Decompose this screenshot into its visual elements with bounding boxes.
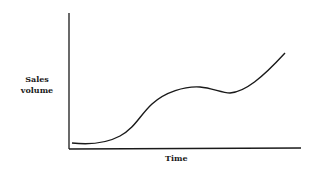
y-axis-label-line2: volume bbox=[14, 85, 60, 96]
x-axis-label: Time bbox=[165, 153, 188, 163]
y-axis-label: Sales volume bbox=[14, 74, 60, 96]
x-axis bbox=[69, 148, 301, 149]
y-axis-label-line1: Sales bbox=[14, 74, 60, 85]
sales-curve bbox=[72, 53, 285, 144]
